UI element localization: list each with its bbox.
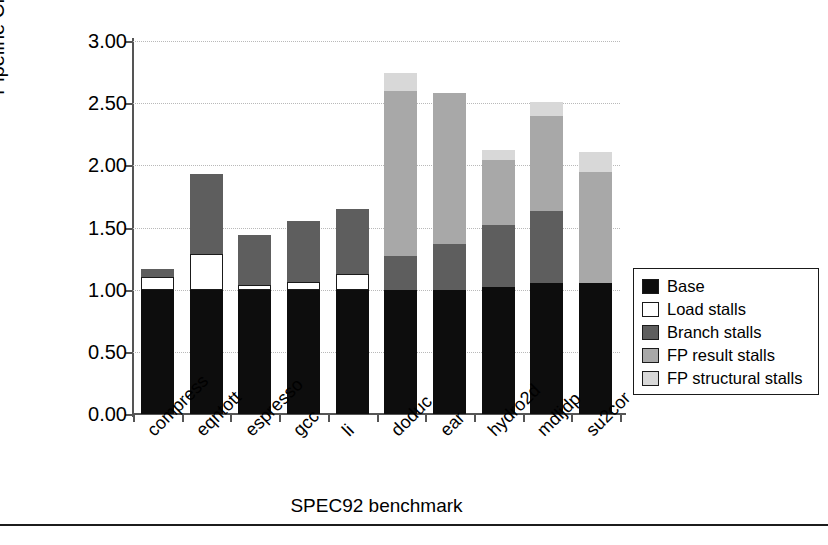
bar-segment: [579, 152, 612, 172]
bar-li[interactable]: [336, 209, 369, 414]
legend-swatch-icon: [642, 302, 659, 317]
x-axis-title: SPEC92 benchmark: [133, 495, 620, 517]
y-axis-title: Pipeline CPI: [0, 0, 9, 150]
bar-mdljdp[interactable]: [530, 102, 563, 414]
bar-hydro2d[interactable]: [482, 150, 515, 414]
legend-label: Base: [667, 277, 705, 296]
gridline: [133, 41, 620, 42]
bar-segment: [190, 254, 223, 290]
bar-segment: [287, 221, 320, 282]
bar-segment: [579, 283, 612, 414]
bar-segment: [238, 290, 271, 414]
bar-compress[interactable]: [141, 269, 174, 414]
bar-ear[interactable]: [433, 93, 466, 414]
bar-segment: [433, 93, 466, 243]
y-axis-tick-label: 2.50: [88, 92, 127, 115]
bar-segment: [482, 150, 515, 160]
x-axis-tick-labels: compresseqntottespressogcclidoducearhydr…: [133, 420, 633, 500]
y-axis-tick-label: 0.00: [88, 403, 127, 426]
bar-segment: [336, 274, 369, 290]
legend-swatch-icon: [642, 348, 659, 363]
bar-segment: [190, 174, 223, 254]
bar-segment: [482, 287, 515, 414]
y-axis-tick-label: 1.00: [88, 278, 127, 301]
bar-segment: [336, 209, 369, 274]
bar-segment: [482, 225, 515, 287]
y-axis-tick-label: 2.00: [88, 154, 127, 177]
legend-label: FP structural stalls: [667, 369, 802, 388]
legend-item[interactable]: FP result stalls: [642, 344, 818, 367]
figure-root: Pipeline CPI 3.002.502.001.501.000.500.0…: [0, 0, 828, 545]
bar-segment: [482, 160, 515, 225]
legend-item[interactable]: FP structural stalls: [642, 367, 818, 390]
footer-divider-rule: [0, 524, 828, 526]
bar-segment: [530, 211, 563, 283]
plot-area: [133, 41, 620, 414]
legend-item[interactable]: Base: [642, 275, 818, 298]
y-axis-tick-label: 1.50: [88, 216, 127, 239]
bar-segment: [530, 102, 563, 116]
legend-label: FP result stalls: [667, 346, 775, 365]
bar-segment: [141, 277, 174, 289]
chart-legend: BaseLoad stallsBranch stallsFP result st…: [633, 268, 819, 395]
legend-label: Branch stalls: [667, 323, 761, 342]
bar-segment: [579, 172, 612, 284]
bar-segment: [433, 290, 466, 414]
legend-swatch-icon: [642, 279, 659, 294]
bar-segment: [384, 73, 417, 90]
bar-segment: [141, 290, 174, 414]
y-axis-tick-label: 0.50: [88, 340, 127, 363]
legend-swatch-icon: [642, 371, 659, 386]
legend-label: Load stalls: [667, 300, 746, 319]
bar-espresso[interactable]: [238, 235, 271, 414]
bar-segment: [384, 290, 417, 414]
bar-su2cor[interactable]: [579, 152, 612, 414]
bar-doduc[interactable]: [384, 73, 417, 414]
legend-swatch-icon: [642, 325, 659, 340]
legend-item[interactable]: Load stalls: [642, 298, 818, 321]
bar-segment: [336, 290, 369, 414]
bar-segment: [433, 244, 466, 290]
bar-segment: [384, 91, 417, 256]
bar-segment: [238, 235, 271, 285]
legend-item[interactable]: Branch stalls: [642, 321, 818, 344]
x-axis-category-label: li: [338, 420, 359, 441]
bar-segment: [287, 282, 320, 289]
bar-segment: [141, 269, 174, 278]
bar-segment: [384, 256, 417, 290]
bar-segment: [530, 116, 563, 212]
y-axis-tick-label: 3.00: [88, 30, 127, 53]
